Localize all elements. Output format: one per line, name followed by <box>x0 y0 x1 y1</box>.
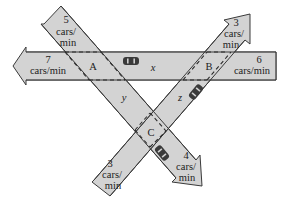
flow-b-in-value: 6 <box>256 54 261 65</box>
flow-c-in-unit-1: cars/ <box>102 169 122 180</box>
flow-a-in-unit-1: cars/ <box>56 26 76 37</box>
intersection-c-label: C <box>147 127 154 138</box>
flow-c-in-unit-2: min <box>105 180 122 191</box>
intersection-a-label: A <box>89 61 97 72</box>
flow-c-out-unit-1: cars/ <box>176 161 196 172</box>
flow-b-in-unit: cars/min <box>234 65 271 76</box>
traffic-diagram: A B C x y z 5 cars/ min 7 cars/min 6 car… <box>0 0 288 197</box>
flow-b-out-unit-1: cars/ <box>224 28 244 39</box>
flow-b-out-unit-2: min <box>223 39 240 50</box>
flow-a-in-unit-2: min <box>60 37 77 48</box>
car-icon-horizontal <box>123 57 139 65</box>
flow-a-out-unit: cars/min <box>30 65 67 76</box>
flow-c-out-value: 4 <box>183 150 189 161</box>
flow-a-out-value: 7 <box>45 54 50 65</box>
diag1-right-edge <box>61 6 196 160</box>
flow-c-in-value: 3 <box>107 158 112 169</box>
variable-z-label: z <box>177 92 182 103</box>
flow-c-out-unit-2: min <box>179 172 196 183</box>
flow-b-out-value: 3 <box>233 17 238 28</box>
variable-x-label: x <box>150 62 156 73</box>
variable-y-label: y <box>121 92 127 103</box>
flow-a-in-value: 5 <box>63 14 68 25</box>
intersection-b-label: B <box>205 61 212 72</box>
